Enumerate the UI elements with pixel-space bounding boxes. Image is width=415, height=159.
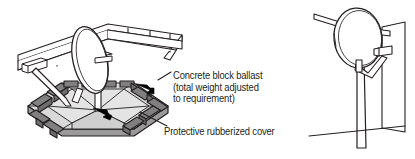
- callout-protective-rubberized-cover: Protective rubberized cover: [164, 126, 275, 138]
- callout-concrete-block-ballast: Concrete block ballast (total weight adj…: [173, 70, 262, 105]
- right-panel-illustration: [309, 6, 405, 148]
- callout-ballast-line-1: Concrete block ballast: [173, 70, 262, 82]
- leader-line-ballast: [158, 72, 171, 80]
- callout-cover-line-1: Protective rubberized cover: [164, 126, 275, 138]
- left-panel-illustration: [18, 23, 182, 138]
- callout-ballast-line-2: (total weight adjusted: [173, 82, 262, 94]
- callout-ballast-line-3: to requirement): [173, 93, 262, 105]
- illustration-figure: Concrete block ballast (total weight adj…: [0, 0, 415, 159]
- wall-panel: [382, 22, 405, 132]
